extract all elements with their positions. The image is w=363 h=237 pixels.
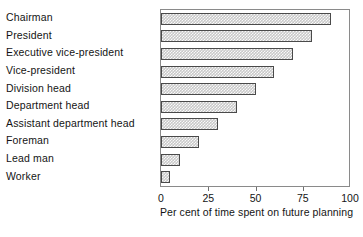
category-label: Assistant department head [6,115,144,132]
bar [161,13,331,25]
bar [161,101,237,113]
x-tick-label: 25 [202,191,214,205]
category-axis-labels: ChairmanPresidentExecutive vice-presiden… [0,9,152,187]
category-label: Foreman [6,132,144,149]
bar [161,118,218,130]
category-label: Lead man [6,150,144,167]
category-label: Chairman [6,9,144,26]
bar-chart: ChairmanPresidentExecutive vice-presiden… [0,0,363,237]
x-tick-label: 50 [250,191,262,205]
bar [161,154,180,166]
category-label: Department head [6,97,144,114]
bar [161,66,274,78]
x-axis-tick-labels: 0255075100 [161,191,350,207]
bar [161,30,312,42]
category-label: President [6,27,144,44]
category-label: Executive vice-president [6,44,144,61]
category-label: Division head [6,80,144,97]
bar [161,136,199,148]
x-axis-title: Per cent of time spent on future plannin… [150,206,363,218]
bar [161,171,170,183]
category-label: Worker [6,168,144,185]
bar [161,83,256,95]
bar [161,48,293,60]
x-tick-label: 100 [341,191,359,205]
bars-container [161,10,350,186]
x-tick-label: 75 [297,191,309,205]
x-tick-label: 0 [158,191,164,205]
category-label: Vice-president [6,62,144,79]
